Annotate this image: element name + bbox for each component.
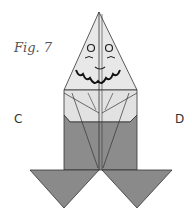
head-panel [64,12,137,90]
origami-diagram [0,0,192,220]
left-flap-c [30,170,99,208]
lower-body-panel [64,115,137,170]
upper-body-panel [64,90,137,122]
right-flap-d [102,170,172,208]
